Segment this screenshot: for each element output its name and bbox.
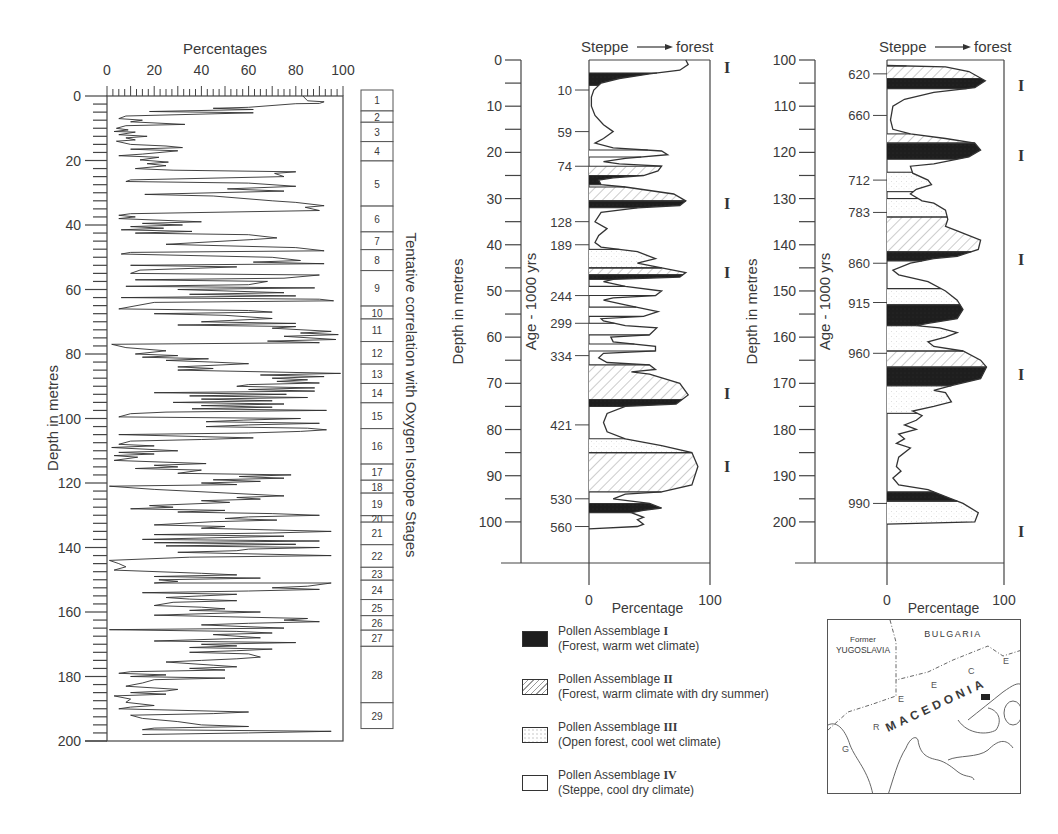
y-tick-label: 80 bbox=[65, 346, 81, 362]
isotope-stage-7: 7 bbox=[361, 232, 393, 250]
svg-text:8: 8 bbox=[374, 255, 380, 266]
band-assemblage-i bbox=[887, 143, 1004, 159]
band-assemblage-ii bbox=[887, 217, 1004, 252]
map-label-former: Former bbox=[850, 635, 876, 644]
age-label: 620 bbox=[848, 67, 870, 82]
isotope-stage-14: 14 bbox=[361, 383, 393, 402]
assemblage-i-marker: I bbox=[1018, 523, 1024, 540]
svg-text:18: 18 bbox=[371, 482, 383, 493]
band-assemblage-ii bbox=[589, 268, 710, 275]
legend-title: Pollen Assemblage bbox=[558, 672, 660, 686]
svg-text:3: 3 bbox=[374, 127, 380, 138]
assemblage-i-marker: I bbox=[724, 385, 730, 402]
map-label-bulgaria: BULGARIA bbox=[924, 629, 982, 639]
assemblage-i-marker: I bbox=[1018, 147, 1024, 164]
isotope-stage-8: 8 bbox=[361, 250, 393, 271]
isotope-stage-22: 22 bbox=[361, 545, 393, 568]
svg-text:forest: forest bbox=[974, 38, 1012, 55]
isotope-stage-28: 28 bbox=[361, 646, 393, 702]
assemblage-i-marker: I bbox=[724, 59, 730, 76]
legend-numeral: IV bbox=[663, 768, 676, 782]
svg-text:12: 12 bbox=[371, 348, 383, 359]
age-label: 860 bbox=[848, 256, 870, 271]
map-label-yugoslavia: YUGOSLAVIA bbox=[836, 645, 890, 655]
depth-tick-label: 50 bbox=[486, 283, 502, 299]
y-tick-label: 100 bbox=[58, 411, 82, 427]
band-assemblage-i bbox=[589, 73, 710, 85]
assemblage-bands bbox=[589, 73, 710, 513]
depth-axis-title: Depth in metres bbox=[743, 259, 760, 365]
greece-letter: R bbox=[873, 722, 880, 732]
open-forest-swatch bbox=[522, 727, 548, 743]
age-label: 299 bbox=[550, 316, 572, 331]
svg-text:25: 25 bbox=[371, 603, 383, 614]
depth-tick-label: 190 bbox=[773, 468, 797, 484]
isotope-stage-16: 16 bbox=[361, 429, 393, 464]
svg-text:27: 27 bbox=[371, 633, 383, 644]
svg-text:5: 5 bbox=[374, 179, 380, 190]
isotope-stage-26: 26 bbox=[361, 616, 393, 631]
isotope-stage-21: 21 bbox=[361, 522, 393, 545]
svg-text:Steppe: Steppe bbox=[879, 38, 927, 55]
y-tick-label: 140 bbox=[58, 540, 82, 556]
band-assemblage-iii bbox=[887, 199, 1004, 217]
forest-dry-summer-swatch bbox=[522, 679, 548, 695]
assemblage-i-marker: I bbox=[724, 264, 730, 281]
svg-text:14: 14 bbox=[371, 388, 383, 399]
y-tick-label: 120 bbox=[58, 475, 82, 491]
coastline-peninsula bbox=[948, 741, 1013, 760]
svg-text:forest: forest bbox=[676, 38, 714, 55]
band-assemblage-i bbox=[589, 503, 710, 512]
macedonia-map-svg: Former YUGOSLAVIA BULGARIA MACEDONIA GRE… bbox=[828, 620, 1021, 794]
depth-tick-label: 90 bbox=[486, 468, 502, 484]
depth-tick-label: 120 bbox=[773, 144, 797, 160]
age-label: 189 bbox=[550, 238, 572, 253]
left-percentage-chart: Percentages 020406080100 020406080100120… bbox=[44, 40, 420, 749]
depth-tick-label: 200 bbox=[773, 514, 797, 530]
depth-tick-label: 110 bbox=[774, 98, 797, 114]
band-assemblage-iv bbox=[589, 323, 710, 335]
isotope-stage-10: 10 bbox=[361, 306, 393, 319]
band-assemblage-iii bbox=[887, 386, 1004, 414]
isotope-stage-6: 6 bbox=[361, 206, 393, 232]
band-assemblage-i bbox=[887, 78, 1004, 88]
band-assemblage-iii bbox=[589, 439, 710, 453]
svg-text:22: 22 bbox=[371, 551, 383, 562]
svg-text:6: 6 bbox=[374, 214, 380, 225]
legend: Pollen Assemblage I(Forest, warm wet cli… bbox=[522, 624, 812, 816]
x-tick-label: 40 bbox=[194, 62, 210, 78]
band-assemblage-iii bbox=[887, 172, 1004, 191]
x-tick-label: 60 bbox=[241, 62, 257, 78]
isotope-stage-13: 13 bbox=[361, 364, 393, 383]
greece-letter: E bbox=[931, 680, 937, 690]
legend-desc: (Forest, warm climate with dry summer) bbox=[558, 687, 769, 701]
left-pollen-curve bbox=[109, 96, 340, 735]
svg-text:26: 26 bbox=[371, 618, 383, 629]
band-assemblage-i bbox=[589, 175, 710, 184]
age-axis-title: Age - 1000 yrs bbox=[522, 253, 539, 351]
depth-tick-label: 100 bbox=[479, 514, 503, 530]
svg-text:Steppe: Steppe bbox=[581, 38, 629, 55]
x-tick-label: 80 bbox=[288, 62, 304, 78]
svg-text:13: 13 bbox=[371, 369, 383, 380]
age-label: 10 bbox=[558, 83, 572, 98]
band-assemblage-iii bbox=[887, 501, 1004, 524]
right-assemblage-chart: Steppeforest1001101201301401501601701801… bbox=[743, 38, 1024, 616]
svg-text:29: 29 bbox=[371, 711, 383, 722]
x-axis-title: Percentage bbox=[612, 600, 684, 616]
svg-text:21: 21 bbox=[371, 528, 383, 539]
svg-text:17: 17 bbox=[371, 467, 383, 478]
legend-item-assemblage-i: Pollen Assemblage I(Forest, warm wet cli… bbox=[522, 624, 812, 672]
location-map: Former YUGOSLAVIA BULGARIA MACEDONIA GRE… bbox=[827, 619, 1021, 794]
age-label: 59 bbox=[558, 125, 572, 140]
isotope-stage-1: 1 bbox=[361, 90, 393, 111]
age-label: 990 bbox=[848, 496, 870, 511]
svg-text:1: 1 bbox=[374, 95, 380, 106]
legend-title: Pollen Assemblage bbox=[558, 720, 660, 734]
svg-text:23: 23 bbox=[371, 569, 383, 580]
depth-tick-label: 180 bbox=[773, 422, 797, 438]
svg-text:2: 2 bbox=[374, 112, 380, 123]
band-assemblage-ii bbox=[589, 453, 710, 492]
depth-tick-label: 0 bbox=[494, 52, 502, 68]
x-tick-label: 20 bbox=[146, 62, 162, 78]
